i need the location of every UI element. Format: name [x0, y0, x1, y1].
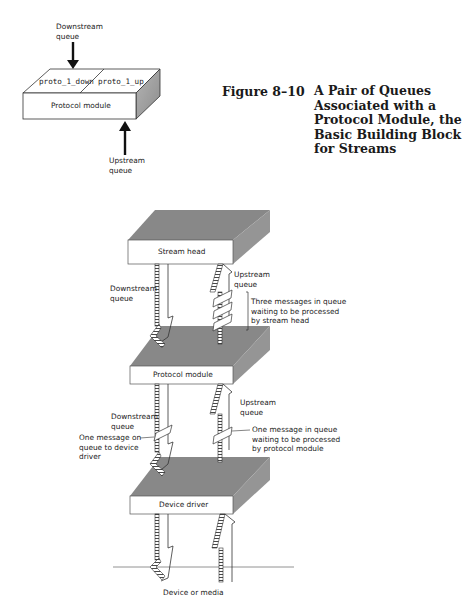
- figure-title-line: Basic Building Block: [314, 128, 462, 143]
- stream-head-label: Stream head: [158, 247, 206, 257]
- figure-title-line: for Streams: [314, 142, 462, 157]
- head-upstream-label: Upstream queue: [234, 270, 270, 289]
- top-module-label: Protocol module: [51, 101, 111, 111]
- figure-title-line: Protocol Module, the: [314, 113, 462, 128]
- top-downstream-label: Downstream queue: [56, 22, 103, 41]
- top-protocol-module-diagram: [23, 42, 160, 155]
- upstream-arrow-2: [210, 384, 250, 462]
- head-messages-note: Three messages in queue waiting to be pr…: [251, 297, 346, 326]
- figure-title-line: A Pair of Queues: [314, 84, 462, 99]
- downstream-arrow-3: [150, 514, 173, 581]
- figure-number: Figure 8–10: [222, 84, 305, 99]
- proto-message-down-note: One message on queue to device driver: [79, 433, 141, 462]
- protocol-module-label: Protocol module: [153, 370, 213, 380]
- device-driver-label: Device driver: [159, 500, 208, 510]
- proto-upstream-label: Upstream queue: [240, 398, 276, 417]
- head-downstream-label: Downstream queue: [110, 284, 157, 303]
- proto-message-up-note: One message in queue waiting to be proce…: [252, 425, 340, 454]
- proto-downstream-label: Downstream queue: [111, 412, 158, 431]
- figure-title-line: Associated with a: [314, 99, 462, 114]
- queue-proto-1-down: proto_1_down: [39, 77, 94, 86]
- top-upstream-label: Upstream queue: [109, 156, 145, 175]
- upstream-arrow-3: [212, 514, 235, 582]
- queue-proto-1-up: proto_1_up: [98, 77, 144, 86]
- device-media-label: Device or media: [163, 588, 224, 598]
- figure-title: A Pair of Queues Associated with a Proto…: [314, 84, 462, 157]
